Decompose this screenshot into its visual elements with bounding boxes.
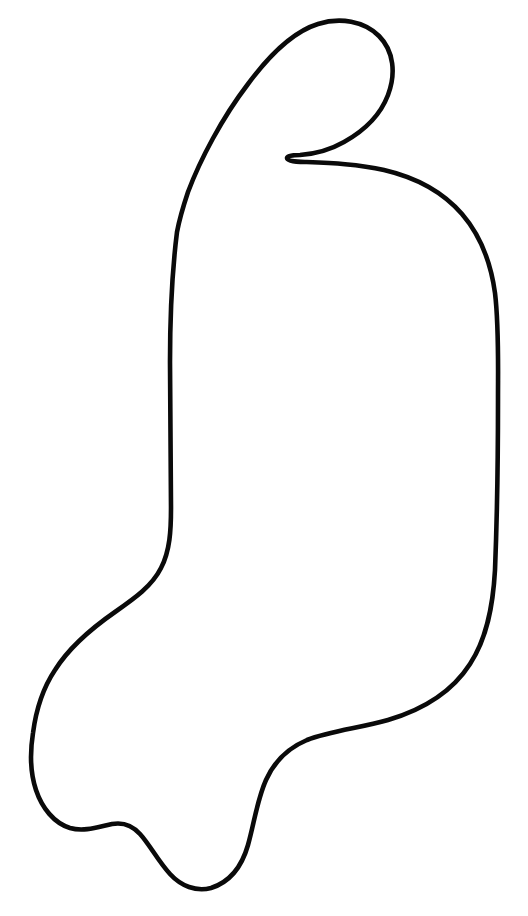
canvas-background	[0, 0, 528, 916]
outline-drawing-svg	[0, 0, 528, 916]
drawing-canvas	[0, 0, 528, 916]
